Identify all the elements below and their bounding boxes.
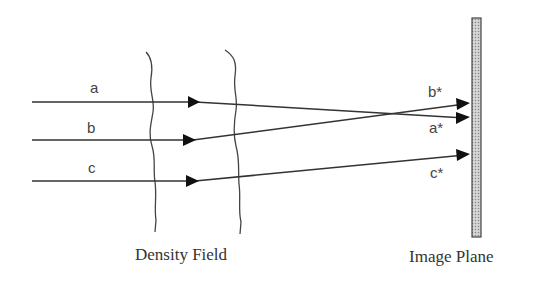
density-field-boundary-left <box>146 52 156 232</box>
arrowhead-icon <box>183 134 196 146</box>
ray-a <box>32 96 470 124</box>
ray-label-c: c <box>88 159 96 176</box>
image-label-a: a* <box>429 119 443 136</box>
arrowhead-icon <box>186 175 199 187</box>
density-field-boundary-right <box>225 50 241 234</box>
schlieren-diagram: a b c b* a* c* Density Field Image Plane <box>0 0 538 282</box>
image-plane <box>472 18 481 237</box>
arrowhead-icon <box>456 98 470 110</box>
image-plane-label: Image Plane <box>409 247 494 266</box>
ray-label-a: a <box>90 79 99 96</box>
arrowhead-icon <box>456 149 470 161</box>
ray-label-b: b <box>87 119 95 136</box>
arrowhead-icon <box>188 96 200 108</box>
ray-c <box>32 149 470 187</box>
arrowhead-icon <box>456 112 470 124</box>
image-label-c: c* <box>430 164 444 181</box>
image-label-b: b* <box>428 83 442 100</box>
density-field-label: Density Field <box>135 245 228 264</box>
